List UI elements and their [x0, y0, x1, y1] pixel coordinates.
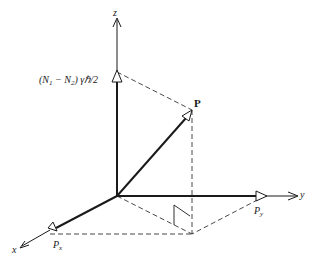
p-vector-label: P — [194, 98, 201, 109]
y-axis-label: y — [300, 190, 304, 200]
z-axis-label: z — [113, 8, 117, 18]
right-angle-marker — [174, 205, 190, 225]
vector-diagram — [0, 0, 315, 261]
component-vectors — [56, 78, 258, 228]
x-component-vector — [56, 196, 117, 228]
y-component-arrowhead-icon — [256, 191, 267, 201]
z-component-label-part1: (N — [39, 74, 49, 85]
dashed-projection-lines — [50, 72, 265, 234]
y-component-label-sub: y — [260, 210, 263, 218]
p-vector — [117, 118, 186, 196]
x-axis — [22, 230, 50, 246]
x-component-arrowhead-icon — [48, 222, 57, 231]
x-component-label-sub: x — [59, 244, 62, 252]
z-component-label: (N1 − N2) γℏ/2 — [39, 75, 98, 87]
z-component-label-part3: ) γℏ/2 — [74, 74, 98, 85]
z-component-arrowhead-icon — [112, 70, 122, 82]
x-axis-label: x — [12, 245, 16, 255]
z-component-label-part2: − N — [53, 74, 71, 85]
y-component-label: Py — [254, 206, 263, 218]
x-component-label: Px — [53, 240, 62, 252]
